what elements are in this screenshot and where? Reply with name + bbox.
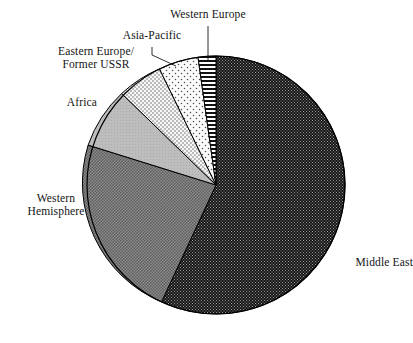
pie-slices bbox=[82, 56, 345, 314]
pie-label-western-europe: Western Europe bbox=[146, 8, 270, 22]
pie-label-eastern-europe-line1: Eastern Europe/ bbox=[40, 45, 152, 59]
pie-label-middle-east: Middle East bbox=[333, 256, 413, 270]
pie-label-asia-pacific: Asia-Pacific bbox=[96, 29, 208, 43]
pie-label-western-hemisphere-line2: Hemisphere bbox=[8, 205, 104, 219]
pie-label-africa: Africa bbox=[48, 96, 116, 110]
pie-label-western-hemisphere-line1: Western bbox=[8, 192, 104, 206]
pie-label-eastern-europe-line2: Former USSR bbox=[40, 58, 152, 72]
pie-chart: Western Europe Asia-Pacific Eastern Euro… bbox=[0, 0, 413, 343]
